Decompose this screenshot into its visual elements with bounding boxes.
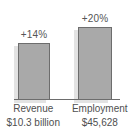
category-name-employment: Employment: [67, 102, 134, 116]
bar-group-employment: +20%: [78, 27, 112, 100]
plot-area: +14% +20%: [0, 0, 133, 100]
category-block-revenue: Revenue $10.3 billion: [0, 102, 67, 130]
bar-chart-figure: +14% +20% Revenue $10.3 billion Employme…: [0, 0, 133, 138]
category-block-employment: Employment $45,628: [67, 102, 134, 130]
bar-group-revenue: +14%: [18, 43, 50, 100]
bar-value-label-revenue: +14%: [21, 29, 47, 40]
category-sublabel-employment: $45,628: [67, 116, 134, 130]
bar-revenue[interactable]: [18, 43, 50, 100]
bar-employment[interactable]: [78, 27, 112, 100]
baseline-axis: [14, 99, 120, 100]
category-name-revenue: Revenue: [0, 102, 67, 116]
bar-value-label-employment: +20%: [82, 13, 108, 24]
category-sublabel-revenue: $10.3 billion: [0, 116, 67, 130]
category-labels: Revenue $10.3 billion Employment $45,628: [0, 102, 133, 130]
